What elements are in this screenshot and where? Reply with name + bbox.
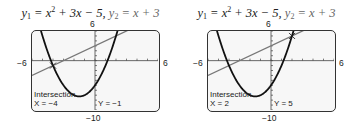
ymax-label: 6 bbox=[266, 19, 271, 29]
intersection-x: X = −4 bbox=[34, 99, 58, 108]
xmax-label: 6 bbox=[339, 58, 344, 68]
parabola-y1 bbox=[208, 31, 308, 96]
xmin-label: −6 bbox=[193, 58, 203, 68]
ymin-label: −10 bbox=[262, 113, 276, 123]
calculator-screen: Intersection X = −4 Y = −1 bbox=[31, 30, 160, 112]
parabola-y1 bbox=[32, 31, 132, 96]
intersection-y: Y = 5 bbox=[274, 99, 293, 108]
ymax-label: 6 bbox=[90, 19, 95, 29]
ymin-label: −10 bbox=[86, 113, 100, 123]
intersection-label: Intersection bbox=[34, 90, 75, 99]
calculator-screen: Intersection X = 2 Y = 5 bbox=[207, 30, 336, 112]
intersection-label: Intersection bbox=[210, 90, 251, 99]
graph-panel-left: y1 = x2 + 3x − 5, y2 = x + 3 6 −6 6 −10 … bbox=[0, 0, 181, 130]
intersection-y: Y = −1 bbox=[98, 99, 121, 108]
intersection-x: X = 2 bbox=[210, 99, 229, 108]
xmax-label: 6 bbox=[163, 58, 168, 68]
xmin-label: −6 bbox=[17, 58, 27, 68]
graph-panel-right: y1 = x2 + 3x − 5, y2 = x + 3 6 −6 6 −10 … bbox=[176, 0, 357, 130]
